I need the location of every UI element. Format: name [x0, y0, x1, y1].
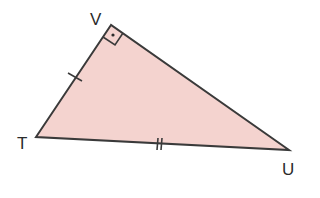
vertex-label-t: T	[17, 134, 27, 153]
triangle-diagram: V T U	[0, 0, 320, 198]
vertex-label-u: U	[282, 160, 294, 179]
triangle-tvu	[36, 25, 289, 150]
right-angle-dot	[111, 33, 114, 36]
vertex-label-v: V	[90, 10, 102, 29]
